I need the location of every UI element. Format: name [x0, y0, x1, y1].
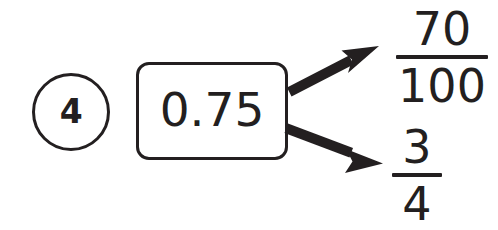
diagram-canvas: 4 0.75 70 100 3 4 [0, 0, 498, 230]
fraction-denominator: 100 [398, 63, 486, 109]
item-number-label: 4 [60, 95, 82, 128]
arrow-to-70-100 [287, 46, 379, 97]
arrow-to-3-4 [285, 124, 384, 174]
fraction-denominator: 4 [402, 181, 431, 227]
result-fraction-70-100: 70 100 [396, 6, 488, 109]
source-value-box: 0.75 [136, 62, 288, 160]
fraction-numerator: 3 [402, 124, 431, 170]
result-fraction-3-4: 3 4 [392, 124, 442, 227]
item-number-badge: 4 [32, 73, 110, 151]
source-value-label: 0.75 [160, 86, 265, 133]
fraction-numerator: 70 [413, 6, 472, 52]
